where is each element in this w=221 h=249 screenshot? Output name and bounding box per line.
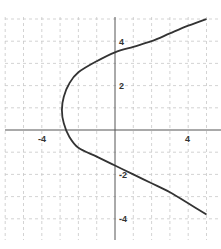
y-tick-label-2: 2 [119,81,124,91]
y-tick-label-neg2: -2 [119,170,127,180]
parabola-curve [62,19,207,214]
y-tick-label-neg4: -4 [119,214,127,224]
y-tick-label-4: 4 [119,37,124,47]
coordinate-plane: -4 4 4 2 -2 -4 [0,0,221,249]
x-tick-label-neg4: -4 [38,134,46,144]
x-tick-label-4: 4 [185,134,190,144]
grid-lines [5,17,221,240]
